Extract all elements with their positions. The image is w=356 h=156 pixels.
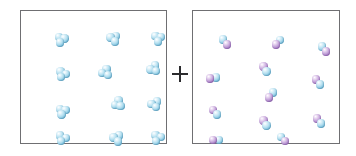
purple-atom [281,137,289,145]
purple-atom [265,93,273,101]
purple-atom [206,74,214,82]
blue-atom [104,71,112,79]
reaction-diagram [0,0,356,156]
blue-atom [152,137,160,145]
plus-icon-vertical-bar [179,66,181,82]
blue-atom [111,37,119,45]
blue-atom [57,73,65,81]
reactant-box-left [20,10,167,144]
plus-icon [170,64,190,84]
blue-atom [116,102,124,110]
purple-atom [272,40,280,48]
blue-atom [262,121,270,129]
purple-atom [322,47,330,55]
blue-atom [152,103,160,111]
blue-atom [316,80,324,88]
blue-atom [213,110,221,118]
purple-atom [223,40,231,48]
blue-atom [154,37,162,45]
blue-atom [317,119,325,127]
blue-atom [56,38,64,46]
blue-atom [57,110,65,118]
blue-atom [262,67,270,75]
blue-atom [114,137,122,145]
blue-atom [152,67,160,75]
reactant-box-right [192,10,340,144]
blue-atom [57,137,65,145]
